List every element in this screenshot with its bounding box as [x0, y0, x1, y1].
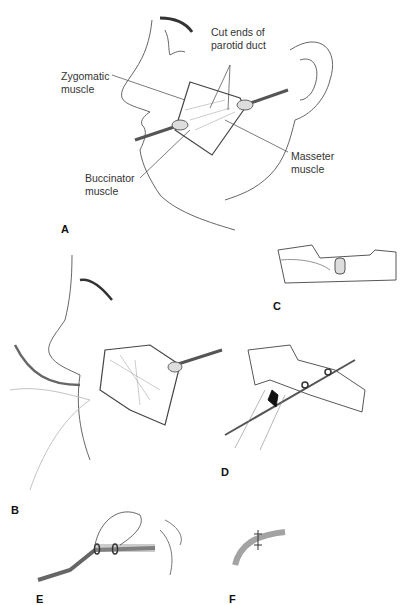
panel-c-drawing	[278, 245, 396, 283]
label-line: muscle	[85, 185, 135, 198]
panel-f-drawing	[235, 530, 285, 565]
label-zygomatic-muscle: Zygomatic muscle	[61, 70, 109, 95]
panel-label-c: C	[273, 300, 281, 312]
panel-label-b: B	[11, 504, 19, 516]
panel-b-drawing	[10, 255, 222, 490]
label-line: Buccinator	[85, 172, 135, 185]
label-buccinator-muscle: Buccinator muscle	[85, 172, 135, 197]
label-line: parotid duct	[211, 39, 266, 52]
panel-d-drawing	[225, 345, 365, 450]
label-line: Masseter	[291, 150, 334, 163]
label-line: Zygomatic	[61, 70, 109, 83]
panel-e-drawing	[38, 512, 181, 580]
label-masseter-muscle: Masseter muscle	[291, 150, 334, 175]
panel-label-e: E	[36, 593, 43, 605]
label-line: muscle	[291, 163, 334, 176]
label-cut-ends-parotid-duct: Cut ends of parotid duct	[211, 26, 266, 51]
label-line: muscle	[61, 83, 109, 96]
label-line: Cut ends of	[211, 26, 266, 39]
panel-label-a: A	[61, 223, 69, 235]
panel-label-d: D	[221, 466, 229, 478]
panel-label-f: F	[229, 593, 236, 605]
